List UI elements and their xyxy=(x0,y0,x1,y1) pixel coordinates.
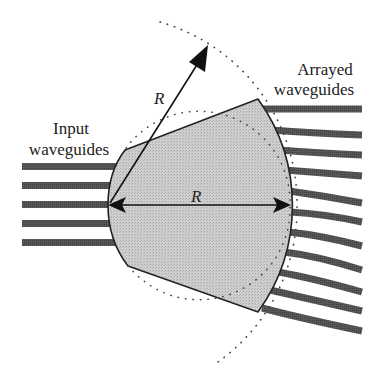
arrayed-waveguide xyxy=(272,130,362,135)
input-waveguide xyxy=(22,182,114,189)
input-waveguide xyxy=(22,201,112,208)
arrayed-waveguide xyxy=(262,308,362,331)
arrayed-waveguide xyxy=(290,212,362,222)
arrowhead-icon xyxy=(189,45,208,72)
input-label-line2: waveguides xyxy=(29,140,109,159)
arrayed-waveguide xyxy=(285,170,362,176)
input-waveguide xyxy=(22,163,119,170)
arrayed-waveguide xyxy=(288,232,362,246)
input-label-line1: Input xyxy=(53,119,89,138)
arrayed-waveguide xyxy=(278,272,362,292)
arrayed-label-line2: waveguides xyxy=(274,80,354,99)
arrayed-waveguide xyxy=(279,150,362,155)
arrayed-label-line1: Arrayed xyxy=(297,60,353,79)
input-waveguide xyxy=(22,239,119,246)
input-waveguide xyxy=(22,220,114,227)
arrayed-waveguide xyxy=(284,252,362,270)
radius-label-horizontal: R xyxy=(190,187,202,206)
arrayed-waveguide xyxy=(289,191,362,203)
radius-label-diagonal: R xyxy=(153,89,165,108)
awg-diagram: Input waveguides Arrayed waveguides R R xyxy=(0,0,387,377)
input-waveguides xyxy=(22,163,119,246)
arrayed-waveguide xyxy=(270,290,362,311)
